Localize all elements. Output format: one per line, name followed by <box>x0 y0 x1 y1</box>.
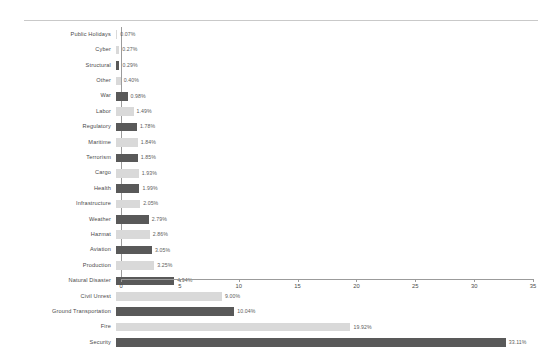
category-label: Aviation <box>0 247 116 253</box>
x-tick-mark <box>533 279 534 282</box>
category-label: Infrastructure <box>0 201 116 207</box>
x-tick-label: 25 <box>412 284 418 290</box>
chart-row: Maritime1.84% <box>0 135 558 150</box>
bar-value-label: 19.92% <box>353 325 371 330</box>
bar-value-label: 10.04% <box>237 309 255 314</box>
x-tick-mark <box>356 279 357 282</box>
chart-row: Other0.40% <box>0 73 558 88</box>
chart-row: Cyber0.27% <box>0 42 558 57</box>
bar[interactable] <box>116 338 506 347</box>
category-label: Labor <box>0 109 116 115</box>
bar[interactable] <box>116 46 119 55</box>
chart-row: Public Holidays0.07% <box>0 27 558 42</box>
category-label: Weather <box>0 217 116 223</box>
bar-value-label: 0.29% <box>122 63 137 68</box>
chart-row: Terrorism1.85% <box>0 150 558 165</box>
chart-row: Aviation3.05% <box>0 242 558 257</box>
bar-zone: 2.86% <box>116 227 558 242</box>
chart-row: Ground Transportation10.04% <box>0 304 558 319</box>
chart-row: Labor1.49% <box>0 104 558 119</box>
category-label: Structural <box>0 63 116 69</box>
bar-zone: 0.40% <box>116 73 558 88</box>
bar-value-label: 1.99% <box>142 186 157 191</box>
bar-zone: 19.92% <box>116 319 558 334</box>
bar-zone: 1.84% <box>116 135 558 150</box>
bar-value-label: 1.78% <box>140 124 155 129</box>
bar-zone: 0.27% <box>116 42 558 57</box>
bar-value-label: 0.27% <box>122 47 137 52</box>
bar-value-label: 2.05% <box>143 201 158 206</box>
category-label: Maritime <box>0 140 116 146</box>
category-label: Public Holidays <box>0 32 116 38</box>
x-tick-label: 20 <box>353 284 359 290</box>
bar-zone: 1.99% <box>116 181 558 196</box>
category-label: Regulatory <box>0 124 116 130</box>
x-tick-label: 5 <box>178 284 181 290</box>
bar[interactable] <box>116 215 149 224</box>
category-label: Terrorism <box>0 155 116 161</box>
chart-row: Weather2.79% <box>0 212 558 227</box>
category-label: Cyber <box>0 47 116 53</box>
bar[interactable] <box>116 77 121 86</box>
bar[interactable] <box>116 230 150 239</box>
x-tick-label: 10 <box>235 284 241 290</box>
bar-value-label: 1.85% <box>141 155 156 160</box>
category-label: Hazmat <box>0 232 116 238</box>
chart-row: Regulatory1.78% <box>0 119 558 134</box>
chart-row: Structural0.29% <box>0 58 558 73</box>
bar[interactable] <box>116 261 154 270</box>
plot-area: Public Holidays0.07%Cyber0.27%Structural… <box>0 27 558 279</box>
category-label: Cargo <box>0 170 116 176</box>
chart-row: Cargo1.93% <box>0 166 558 181</box>
category-label: Ground Transportation <box>0 309 116 315</box>
category-label: War <box>0 93 116 99</box>
bar[interactable] <box>116 154 138 163</box>
bar-zone: 1.49% <box>116 104 558 119</box>
bar[interactable] <box>116 30 117 39</box>
bar-zone: 3.25% <box>116 258 558 273</box>
bar-value-label: 2.86% <box>153 232 168 237</box>
bar-zone: 0.98% <box>116 89 558 104</box>
x-tick-mark <box>239 279 240 282</box>
bar-zone: 0.29% <box>116 58 558 73</box>
bar-value-label: 1.49% <box>137 109 152 114</box>
chart-row: Hazmat2.86% <box>0 227 558 242</box>
x-tick-label: 35 <box>530 284 536 290</box>
x-tick-label: 15 <box>294 284 300 290</box>
x-tick-mark <box>121 279 122 282</box>
bar-zone: 2.79% <box>116 212 558 227</box>
bar[interactable] <box>116 123 137 132</box>
chart-row: Infrastructure2.05% <box>0 196 558 211</box>
x-axis: 05101520253035 <box>0 279 558 303</box>
category-label: Security <box>0 340 116 346</box>
top-divider-rule <box>24 20 538 21</box>
bar-zone: 1.93% <box>116 166 558 181</box>
x-tick-mark <box>415 279 416 282</box>
bar[interactable] <box>116 246 152 255</box>
category-label: Fire <box>0 324 116 330</box>
bar[interactable] <box>116 169 139 178</box>
bar[interactable] <box>116 323 350 332</box>
bar-zone: 10.04% <box>116 304 558 319</box>
x-tick-label: 30 <box>471 284 477 290</box>
bar-value-label: 3.05% <box>155 248 170 253</box>
bar-zone: 2.05% <box>116 196 558 211</box>
bar[interactable] <box>116 92 128 101</box>
bar-value-label: 1.93% <box>142 171 157 176</box>
chart-row: Fire19.92% <box>0 319 558 334</box>
bar-value-label: 1.84% <box>141 140 156 145</box>
bar[interactable] <box>116 61 119 70</box>
bar[interactable] <box>116 107 134 116</box>
bar-value-label: 0.40% <box>124 78 139 83</box>
bar[interactable] <box>116 307 234 316</box>
bar[interactable] <box>116 138 138 147</box>
bar[interactable] <box>116 200 140 209</box>
bar-zone: 0.07% <box>116 27 558 42</box>
bar-zone: 1.85% <box>116 150 558 165</box>
bar-value-label: 0.98% <box>131 94 146 99</box>
bar[interactable] <box>116 184 139 193</box>
x-axis-line <box>121 279 533 280</box>
bar-value-label: 2.79% <box>152 217 167 222</box>
category-label: Other <box>0 78 116 84</box>
